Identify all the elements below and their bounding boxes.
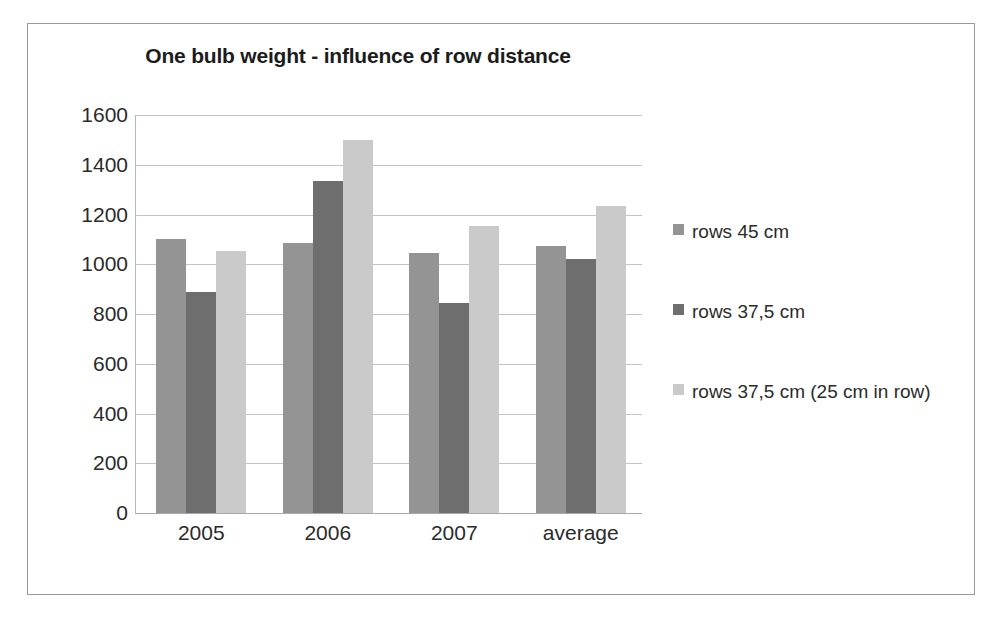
y-axis-tick-label: 400	[32, 402, 128, 426]
legend-item: rows 37,5 cm (25 cm in row)	[673, 379, 958, 404]
y-axis-tick-label: 600	[32, 352, 128, 376]
bar	[536, 246, 566, 513]
y-axis-tick-label: 1000	[32, 252, 128, 276]
legend-label: rows 37,5 cm (25 cm in row)	[692, 379, 931, 404]
y-axis-tick-label: 1200	[32, 203, 128, 227]
x-axis-tick-label: 2007	[394, 521, 514, 545]
x-axis-tick-label: 2005	[141, 521, 261, 545]
x-axis-tick-label: average	[521, 521, 641, 545]
gridline	[136, 513, 642, 514]
legend-swatch-icon	[673, 384, 684, 395]
bar	[439, 303, 469, 513]
bars-layer	[135, 115, 641, 513]
y-axis: 16001400120010008006004002000	[28, 115, 128, 513]
bar	[216, 251, 246, 513]
bar	[566, 259, 596, 513]
bar	[313, 181, 343, 513]
bar	[283, 243, 313, 513]
legend-item: rows 45 cm	[673, 219, 958, 244]
x-axis: 200520062007average	[135, 521, 641, 561]
bar	[469, 226, 499, 513]
bar	[596, 206, 626, 513]
legend-item: rows 37,5 cm	[673, 299, 958, 324]
y-axis-tick-label: 0	[32, 501, 128, 525]
y-axis-tick-label: 800	[32, 302, 128, 326]
legend-swatch-icon	[673, 224, 684, 235]
y-axis-tick-label: 1400	[32, 153, 128, 177]
x-axis-tick-label: 2006	[268, 521, 388, 545]
bar	[409, 253, 439, 513]
legend-swatch-icon	[673, 304, 684, 315]
bar	[156, 239, 186, 513]
legend-label: rows 45 cm	[692, 219, 789, 244]
bar	[186, 292, 216, 513]
legend-label: rows 37,5 cm	[692, 299, 805, 324]
bar	[343, 140, 373, 513]
y-axis-tick-label: 200	[32, 451, 128, 475]
scanned-page-frame: One bulb weight - influence of row dista…	[27, 23, 975, 595]
chart-title: One bulb weight - influence of row dista…	[28, 44, 688, 68]
y-axis-tick-label: 1600	[32, 103, 128, 127]
